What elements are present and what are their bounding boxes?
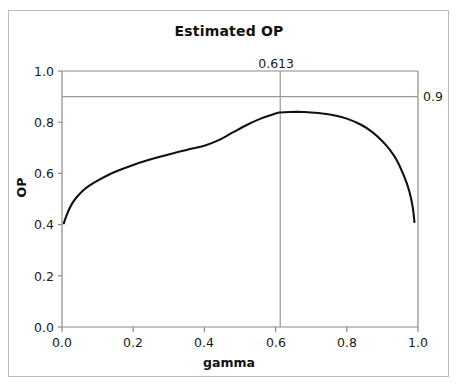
y-tick-label-0.0: 0.0: [20, 320, 54, 335]
y-tick-label-1.0: 1.0: [20, 64, 54, 79]
horizontal-reference-line-label: 0.9: [423, 89, 443, 104]
op-curve: [64, 112, 415, 223]
x-tick-label-0.0: 0.0: [42, 335, 82, 350]
x-tick-label-0.8: 0.8: [327, 335, 367, 350]
y-tick-label-0.8: 0.8: [20, 115, 54, 130]
x-axis-ticks: [62, 327, 418, 332]
y-tick-label-0.2: 0.2: [20, 269, 54, 284]
x-axis-label: gamma: [0, 355, 458, 370]
vertical-reference-line-label: 0.613: [258, 56, 294, 71]
x-tick-label-0.2: 0.2: [113, 335, 153, 350]
x-tick-label-0.6: 0.6: [256, 335, 296, 350]
x-tick-label-0.4: 0.4: [184, 335, 224, 350]
plot-area: [0, 0, 458, 391]
x-tick-label-1.0: 1.0: [398, 335, 438, 350]
y-tick-label-0.4: 0.4: [20, 217, 54, 232]
y-axis-label: OP: [14, 158, 29, 218]
plot-frame: [62, 71, 418, 327]
chart-figure: Estimated OP 1.0 0.8: [0, 0, 458, 391]
